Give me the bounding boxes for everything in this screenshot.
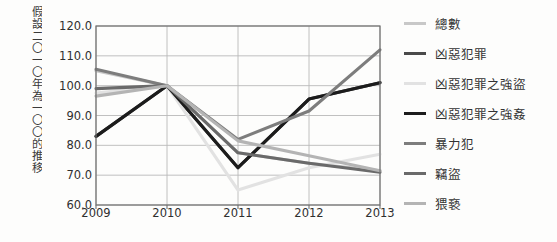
x-tick-label: 2011 — [213, 206, 263, 220]
legend-item-label: 竊盜 — [435, 164, 461, 183]
x-tick-label: 2012 — [284, 206, 334, 220]
chart-legend: 總數凶惡犯罪凶惡犯罪之強盜凶惡犯罪之強姦暴力犯竊盜猥褻 — [404, 14, 554, 228]
gridlines — [96, 26, 380, 205]
legend-item[interactable]: 竊盜 — [404, 164, 461, 182]
legend-color-swatch — [404, 202, 426, 205]
legend-color-swatch — [404, 82, 426, 85]
legend-item[interactable]: 猥褻 — [404, 194, 461, 212]
x-tick-label: 2013 — [355, 206, 405, 220]
legend-item[interactable]: 暴力犯 — [404, 134, 474, 152]
line-chart: 假設二〇一〇年為一〇〇的推移 120.0110.0100.090.080.070… — [0, 0, 557, 242]
legend-item-label: 總數 — [435, 14, 461, 33]
legend-item-label: 凶惡犯罪之強盜 — [435, 74, 526, 93]
legend-color-swatch — [404, 22, 426, 25]
legend-item-label: 凶惡犯罪 — [435, 44, 487, 63]
legend-item[interactable]: 總數 — [404, 14, 461, 32]
legend-color-swatch — [404, 142, 426, 145]
x-tick-label: 2010 — [142, 206, 192, 220]
legend-item-label: 暴力犯 — [435, 134, 474, 153]
legend-item[interactable]: 凶惡犯罪之強姦 — [404, 104, 526, 122]
x-tick-label: 2009 — [71, 206, 121, 220]
legend-color-swatch — [404, 112, 426, 115]
legend-color-swatch — [404, 52, 426, 55]
legend-item-label: 猥褻 — [435, 194, 461, 213]
legend-item-label: 凶惡犯罪之強姦 — [435, 104, 526, 123]
legend-item[interactable]: 凶惡犯罪 — [404, 44, 487, 62]
legend-color-swatch — [404, 172, 426, 175]
legend-item[interactable]: 凶惡犯罪之強盜 — [404, 74, 526, 92]
